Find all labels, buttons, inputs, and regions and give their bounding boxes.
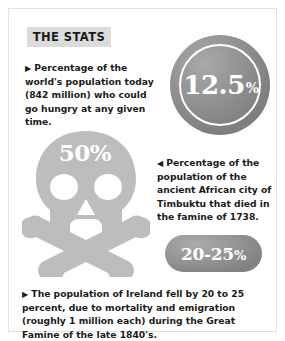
ireland-value-number: 20-25 <box>181 244 234 264</box>
timbuktu-caption-text: Percentage of the population of the anci… <box>157 157 271 222</box>
hunger-value: 12.5% <box>170 35 270 135</box>
ireland-caption-text: The population of Ireland fell by 20 to … <box>22 288 244 340</box>
ireland-percent-sign: % <box>234 248 246 263</box>
timbuktu-value-number: 50 <box>59 139 90 166</box>
hunger-caption: ▶ Percentage of the world's population t… <box>25 61 160 128</box>
ireland-pill-badge: 20-25% <box>165 235 262 272</box>
hunger-value-number: 12.5 <box>183 70 244 100</box>
section-header-band: THE STATS <box>27 27 111 47</box>
hunger-caption-text: Percentage of the world's population tod… <box>25 62 154 127</box>
timbuktu-value: 50% <box>22 139 150 166</box>
hunger-percent-sign: % <box>246 80 259 96</box>
bullet-right-icon-2: ▶ <box>22 290 28 299</box>
timbuktu-skull-graphic: 50% <box>22 131 150 277</box>
bullet-right-icon: ▶ <box>25 64 31 73</box>
timbuktu-caption: ◀ Percentage of the population of the an… <box>157 156 275 223</box>
ireland-value: 20-25% <box>181 244 246 264</box>
infographic-panel: THE STATS 12.5% ▶ Percentage of the worl… <box>0 0 285 341</box>
ireland-caption: ▶ The population of Ireland fell by 20 t… <box>22 287 270 341</box>
hunger-circle-badge: 12.5% <box>170 35 270 135</box>
section-title: THE STATS <box>33 30 105 44</box>
timbuktu-percent-sign: % <box>90 139 111 166</box>
bullet-left-icon: ◀ <box>157 159 163 168</box>
